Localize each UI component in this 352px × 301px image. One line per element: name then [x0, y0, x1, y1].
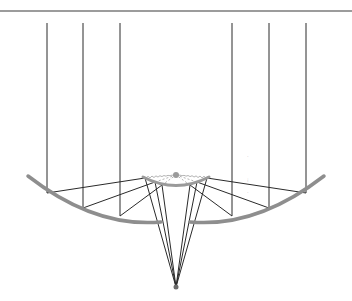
secondary-focus-dot [173, 172, 179, 178]
faint-mark: · [247, 189, 249, 195]
reflector-ray-diagram: ·⁝· [0, 0, 352, 301]
faint-mark: ⁝ [247, 177, 249, 183]
faint-annotation-marks: ·⁝· [247, 153, 249, 195]
secondary-reflector [143, 177, 209, 186]
primary-dish-left [28, 176, 161, 223]
ray-path [83, 23, 176, 287]
ray-path [176, 23, 269, 287]
faint-mark: · [247, 153, 249, 159]
ray-path [176, 23, 306, 287]
incoming-rays [47, 23, 306, 287]
ray-path [47, 23, 176, 287]
focal-point [174, 285, 179, 290]
